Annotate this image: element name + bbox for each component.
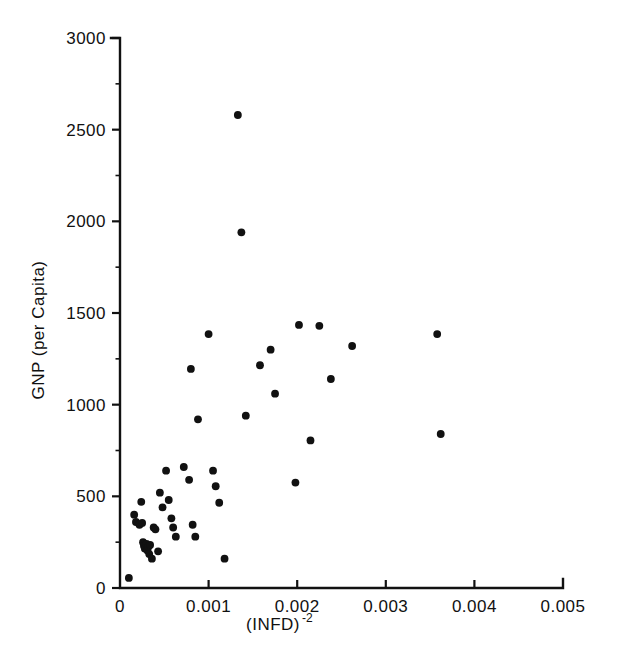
y-axis-tick-labels: 050010001500200025003000 xyxy=(66,29,106,598)
data-point xyxy=(267,346,275,354)
y-tick-label-3000: 3000 xyxy=(66,29,106,48)
data-point xyxy=(191,533,199,541)
data-point xyxy=(148,555,156,563)
x-axis-title-exponent: -2 xyxy=(302,611,313,625)
data-point xyxy=(271,390,279,398)
axes xyxy=(111,38,563,588)
data-point xyxy=(295,321,303,329)
data-point xyxy=(437,430,445,438)
data-point xyxy=(315,322,323,330)
data-point xyxy=(172,533,180,541)
x-axis-tick-labels: 00.0010.0020.0030.0040.005 xyxy=(115,597,586,616)
y-tick-label-2000: 2000 xyxy=(66,212,106,231)
y-tick-label-0: 0 xyxy=(96,579,106,598)
data-point xyxy=(156,489,164,497)
data-point xyxy=(307,437,315,445)
x-tick-label-0: 0 xyxy=(115,597,125,616)
data-point xyxy=(125,574,133,582)
data-point xyxy=(221,555,229,563)
data-point xyxy=(162,467,170,475)
data-point xyxy=(154,547,162,555)
data-point xyxy=(433,330,441,338)
data-point xyxy=(146,541,154,549)
y-tick-label-1500: 1500 xyxy=(66,304,106,323)
data-point xyxy=(209,467,217,475)
data-point xyxy=(256,361,264,369)
data-point xyxy=(327,375,335,383)
x-tick-label-0.001: 0.001 xyxy=(186,597,231,616)
data-point xyxy=(169,524,177,532)
y-tick-label-1000: 1000 xyxy=(66,396,106,415)
x-tick-label-0.003: 0.003 xyxy=(363,597,408,616)
data-point xyxy=(292,479,300,487)
data-point xyxy=(237,228,245,236)
chart-canvas: 050010001500200025003000 00.0010.0020.00… xyxy=(0,0,628,661)
data-point xyxy=(242,412,250,420)
data-point xyxy=(215,499,223,507)
data-point xyxy=(234,111,242,119)
data-point xyxy=(205,330,213,338)
data-point xyxy=(159,503,167,511)
data-point xyxy=(185,476,193,484)
scatter-plot-figure: 050010001500200025003000 00.0010.0020.00… xyxy=(0,0,628,661)
x-axis-title: (INFD) xyxy=(246,615,300,634)
data-point xyxy=(189,521,197,529)
data-point xyxy=(138,519,146,527)
axis-spine xyxy=(111,38,563,588)
data-point xyxy=(130,511,138,519)
y-tick-label-2500: 2500 xyxy=(66,121,106,140)
data-point xyxy=(137,498,145,506)
data-point xyxy=(180,463,188,471)
data-point xyxy=(348,342,356,350)
x-tick-label-0.005: 0.005 xyxy=(540,597,585,616)
x-tick-label-0.002: 0.002 xyxy=(275,597,320,616)
x-tick-label-0.004: 0.004 xyxy=(452,597,497,616)
data-point xyxy=(212,482,220,490)
data-point xyxy=(167,514,175,522)
y-tick-label-500: 500 xyxy=(76,487,106,506)
data-points xyxy=(125,111,445,582)
data-point xyxy=(152,525,160,533)
data-point xyxy=(165,496,173,504)
y-axis-title: GNP (per Capita) xyxy=(29,260,48,399)
data-point xyxy=(187,365,195,373)
data-point xyxy=(194,415,202,423)
